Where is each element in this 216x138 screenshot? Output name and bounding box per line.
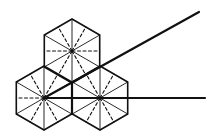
solid-spoke [44, 51, 72, 67]
center-point [70, 49, 73, 52]
solid-spoke [72, 82, 100, 98]
solid-spoke [44, 98, 72, 114]
solid-spoke [16, 82, 44, 98]
solid-spoke [44, 35, 72, 51]
ray-group [44, 12, 205, 98]
solid-spoke [16, 98, 44, 114]
solid-spoke [72, 98, 100, 114]
hexagon-diagram [0, 0, 216, 138]
solid-spoke [72, 51, 100, 67]
hexagon-group [16, 19, 127, 130]
solid-spoke [100, 98, 128, 114]
hexagon-top [44, 19, 99, 83]
solid-spoke [72, 35, 100, 51]
solid-spoke [100, 82, 128, 98]
